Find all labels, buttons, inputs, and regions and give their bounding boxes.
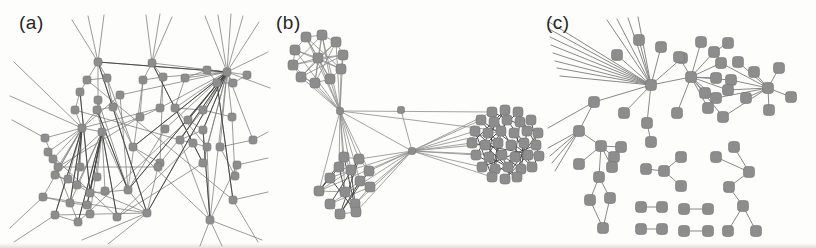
network-panel-b xyxy=(288,30,544,219)
graph-node xyxy=(129,143,137,151)
graph-node xyxy=(76,163,84,171)
graph-node xyxy=(229,79,237,87)
graph-node xyxy=(339,152,349,162)
graph-node xyxy=(203,66,211,74)
graph-node xyxy=(738,201,749,212)
graph-node xyxy=(709,47,720,58)
graph-node xyxy=(483,128,493,138)
graph-node xyxy=(398,107,405,114)
graph-node xyxy=(223,68,231,76)
graph-node xyxy=(676,181,687,192)
graph-node xyxy=(493,138,503,148)
graph-node xyxy=(703,204,714,215)
panel-label-c: (c) xyxy=(546,12,570,34)
graph-node xyxy=(726,75,737,86)
graph-node xyxy=(94,96,102,104)
graph-node xyxy=(763,83,774,94)
graph-node xyxy=(476,115,486,125)
graph-node xyxy=(365,182,375,192)
graph-node xyxy=(314,186,324,196)
graph-node xyxy=(526,115,536,125)
graph-node xyxy=(171,104,179,112)
graph-node xyxy=(301,32,311,42)
graph-node xyxy=(723,226,734,237)
graph-node xyxy=(176,136,184,144)
graph-node xyxy=(346,165,356,175)
graph-node xyxy=(184,116,192,124)
graph-node xyxy=(101,187,109,195)
network-figure: (a) (b) (c) xyxy=(0,0,816,248)
graph-node xyxy=(86,210,94,218)
graph-node xyxy=(351,207,361,217)
graph-node xyxy=(340,187,350,197)
graph-node xyxy=(744,167,755,178)
panel-label-b: (b) xyxy=(276,12,301,34)
graph-node xyxy=(143,209,151,217)
graph-node xyxy=(711,152,722,163)
graph-node xyxy=(718,112,729,123)
graph-node xyxy=(646,80,657,91)
graph-node xyxy=(335,209,345,219)
graph-node xyxy=(700,88,711,99)
graph-ray-edge xyxy=(152,17,172,63)
graph-node xyxy=(642,118,653,129)
graph-ray-edge xyxy=(152,14,160,63)
graph-node xyxy=(477,162,487,172)
graph-node xyxy=(619,108,630,119)
graph-node xyxy=(136,113,144,121)
graph-node xyxy=(51,211,59,219)
graph-node xyxy=(523,150,533,160)
graph-node xyxy=(49,155,57,163)
graph-node xyxy=(199,106,207,114)
graph-node xyxy=(83,201,91,209)
graph-node xyxy=(656,42,667,53)
graph-ray-edge xyxy=(218,15,227,72)
graph-ray-edge xyxy=(12,120,45,138)
graph-ray-edge xyxy=(205,16,227,72)
graph-node xyxy=(729,142,740,153)
graph-node xyxy=(229,196,237,204)
graph-node xyxy=(679,226,690,237)
graph-node xyxy=(641,164,652,175)
graph-node xyxy=(199,126,207,134)
graph-node xyxy=(51,171,59,179)
graph-edge xyxy=(340,111,412,151)
graph-node xyxy=(93,173,101,181)
graph-node xyxy=(531,140,541,150)
graph-node xyxy=(723,38,734,49)
graph-node xyxy=(216,143,224,151)
graph-node xyxy=(288,60,298,70)
graph-node xyxy=(354,154,364,164)
graph-node xyxy=(98,128,106,136)
graph-node xyxy=(355,176,365,186)
graph-node xyxy=(723,85,734,96)
graph-ray-edge xyxy=(10,197,43,228)
graph-node xyxy=(334,162,344,172)
graph-node xyxy=(676,152,687,163)
graph-node xyxy=(716,58,727,69)
graph-node xyxy=(510,152,520,162)
graph-node xyxy=(512,172,522,182)
graph-node xyxy=(124,186,132,194)
graph-node xyxy=(594,172,605,183)
graph-node xyxy=(484,152,494,162)
graph-node xyxy=(73,181,81,189)
graph-node xyxy=(41,134,49,142)
graph-node xyxy=(317,30,327,40)
graph-node xyxy=(325,74,335,84)
graph-edge xyxy=(48,152,117,217)
graph-node xyxy=(503,162,513,172)
graph-node xyxy=(213,79,221,87)
graph-node xyxy=(74,218,82,226)
graph-node xyxy=(609,152,620,163)
graph-edge xyxy=(340,69,341,111)
graph-node xyxy=(76,88,84,96)
graph-node xyxy=(786,92,797,103)
graph-node xyxy=(83,76,91,84)
graph-node xyxy=(409,148,416,155)
graph-node xyxy=(497,150,507,160)
graph-ray-edge xyxy=(551,45,651,85)
graph-node xyxy=(659,166,670,177)
graph-node xyxy=(733,57,744,68)
graph-node xyxy=(605,193,616,204)
